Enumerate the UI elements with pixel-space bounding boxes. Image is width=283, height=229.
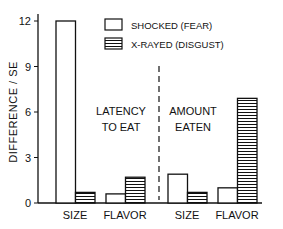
y-axis: 036912 bbox=[19, 14, 38, 209]
bar-xrayed-flavor bbox=[126, 177, 146, 203]
x-tick-labels: SIZEFLAVORSIZEFLAVOR bbox=[63, 209, 259, 221]
bar-shocked-size bbox=[56, 21, 76, 203]
x-tick-label: SIZE bbox=[175, 209, 199, 221]
bar-shocked-size bbox=[168, 174, 188, 203]
legend-swatch bbox=[105, 19, 122, 30]
bar-shocked-flavor bbox=[106, 194, 126, 203]
y-tick-label: 9 bbox=[25, 61, 31, 73]
y-tick-label: 0 bbox=[25, 197, 31, 209]
panel-label: TO EAT bbox=[102, 121, 141, 133]
x-tick-label: SIZE bbox=[63, 209, 87, 221]
x-tick-label: FLAVOR bbox=[215, 209, 258, 221]
panel-label: AMOUNT bbox=[169, 105, 217, 117]
bar-xrayed-flavor bbox=[238, 98, 258, 203]
bar-xrayed-size bbox=[76, 192, 96, 203]
legend-label: X-RAYED (DISGUST) bbox=[131, 39, 224, 50]
y-axis-label: DIFFERENCE / SE bbox=[7, 61, 19, 163]
legend-swatch bbox=[105, 38, 122, 49]
legend: SHOCKED (FEAR)X-RAYED (DISGUST) bbox=[105, 19, 224, 50]
x-tick-label: FLAVOR bbox=[103, 209, 146, 221]
panel-label: LATENCY bbox=[96, 105, 147, 117]
legend-label: SHOCKED (FEAR) bbox=[131, 20, 212, 31]
y-tick-label: 12 bbox=[19, 15, 31, 27]
bar-chart: 036912 DIFFERENCE / SE SIZEFLAVORSIZEFLA… bbox=[0, 0, 283, 229]
panel-labels: LATENCYTO EATAMOUNTEATEN bbox=[96, 105, 217, 133]
y-tick-label: 6 bbox=[25, 106, 31, 118]
y-tick-label: 3 bbox=[25, 152, 31, 164]
bar-xrayed-size bbox=[188, 192, 208, 203]
bar-shocked-flavor bbox=[218, 188, 238, 203]
panel-label: EATEN bbox=[175, 121, 211, 133]
